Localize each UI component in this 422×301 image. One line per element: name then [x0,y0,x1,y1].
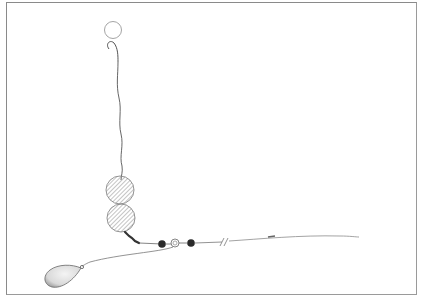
ring-swivel [171,239,179,247]
mainline-near [195,242,222,243]
mainline-knot [268,236,275,237]
hook-bait [105,22,122,39]
lead-link [82,247,173,266]
swivel [125,232,139,243]
pop-up-bait-lower [107,204,135,232]
hooklink [117,62,122,180]
pop-up-bait-upper [106,176,134,204]
bead-left [158,240,166,248]
mainline [229,236,359,241]
bead-right [187,239,195,247]
fishing-rig-diagram [0,0,422,301]
hook [108,42,118,62]
lead-weight [45,265,81,287]
